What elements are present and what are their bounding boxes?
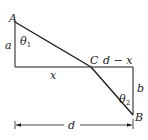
segment-label-x: x — [50, 69, 57, 82]
point-label-b: B — [134, 111, 143, 124]
dimension-arrow-right-icon — [127, 123, 132, 126]
angle-label-theta2: θ2 — [119, 93, 130, 107]
point-label-c: C — [90, 54, 99, 67]
segment-label-a: a — [5, 39, 12, 52]
point-label-a: A — [8, 12, 17, 25]
diagram-canvas: A a θ1 x C d − x b θ2 B d — [0, 0, 148, 140]
refraction-path-diagram: A a θ1 x C d − x b θ2 B d — [0, 0, 148, 140]
path-segment-c-to-b — [91, 67, 133, 115]
dimension-arrow-left-icon — [16, 123, 21, 126]
segment-label-d-minus-x: d − x — [103, 54, 133, 67]
angle-label-theta1: θ1 — [20, 35, 31, 49]
dimension-label-d: d — [68, 119, 75, 132]
segment-label-b: b — [137, 82, 144, 95]
